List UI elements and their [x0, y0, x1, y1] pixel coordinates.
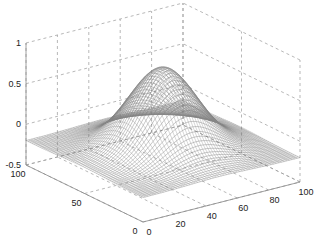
- y-tick-label: 0: [132, 226, 137, 236]
- x-tick-label: 60: [238, 203, 248, 213]
- x-tick-label: 0: [146, 227, 151, 237]
- x-tick-label: 20: [175, 219, 185, 229]
- z-tick-label: 0.5: [8, 79, 21, 89]
- x-tick-label: 40: [207, 211, 217, 221]
- z-tick-label: 0: [16, 119, 21, 129]
- y-tick-label: 50: [71, 198, 81, 208]
- surface-mesh: [26, 67, 300, 198]
- x-tick-label: 100: [298, 187, 313, 197]
- y-tick-label: 100: [10, 169, 25, 179]
- x-tick-label: 80: [270, 195, 280, 205]
- surface-plot: -0.500.51020406080100050100: [0, 0, 322, 246]
- z-tick-label: 1: [16, 38, 21, 48]
